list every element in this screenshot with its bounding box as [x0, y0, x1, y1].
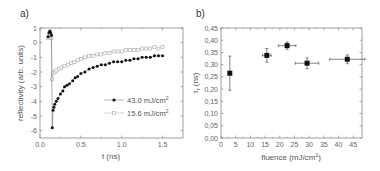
data-point-filled-circle: [76, 75, 79, 78]
y-tick-label: 0: [33, 39, 37, 46]
legend-label-15: 15.6 mJ/cm2: [127, 108, 169, 118]
panel-a-axes-frame: [40, 28, 183, 138]
data-point-open-square: [104, 51, 107, 54]
y-tick-label: -3: [31, 83, 37, 90]
panel-b-ticks: 0510152025303540450,000,050,100,150,200,…: [204, 25, 362, 149]
panel-b-x-axis-title: fluence (mJ/cm2): [261, 152, 321, 162]
x-tick-label: 30: [305, 141, 313, 148]
data-point-open-square: [120, 50, 123, 53]
data-point-filled-circle: [96, 65, 99, 68]
data-point-open-square: [76, 59, 79, 62]
data-point-open-square: [60, 66, 63, 69]
x-tick-label: 1.0: [117, 141, 127, 148]
panel-a-x-axis-title: t (ns): [102, 152, 121, 161]
panel-a-reflectivity-chart: a) 0.00.51.01.510-1-2-3-4-5-6 43.0 mJ/cm…: [16, 8, 183, 161]
data-point-open-square: [137, 49, 140, 52]
y-tick-label: -6: [31, 127, 37, 134]
data-point-filled-square: [264, 53, 269, 58]
data-point-open-square: [161, 46, 164, 49]
data-point-filled-circle: [157, 54, 160, 57]
y-tick-label: 0,35: [204, 49, 218, 56]
x-tick-label: 20: [276, 141, 284, 148]
y-tick-label: 0,20: [204, 86, 218, 93]
data-point-open-square: [63, 65, 66, 68]
data-point-open-square: [157, 47, 160, 50]
x-tick-label: 1.5: [158, 141, 168, 148]
data-point-filled-circle: [50, 34, 53, 37]
data-point-filled-circle: [104, 63, 107, 66]
data-point-filled-circle: [108, 62, 111, 65]
x-tick-label: 25: [291, 141, 299, 148]
data-point-open-square: [112, 50, 115, 53]
x-tick-label: 45: [349, 141, 357, 148]
data-point-filled-circle: [141, 56, 144, 59]
y-tick-label: 0,25: [204, 73, 218, 80]
data-point-open-square: [116, 50, 119, 53]
legend-marker-filled-circle-icon: [112, 98, 115, 101]
data-point-filled-circle: [100, 63, 103, 66]
data-point-open-square: [149, 47, 152, 50]
data-point-filled-circle: [149, 56, 152, 59]
data-point-filled-square: [285, 43, 290, 48]
x-tick-label: 0.0: [35, 141, 45, 148]
data-point-filled-circle: [51, 126, 54, 129]
panel-a-ticks: 0.00.51.01.510-1-2-3-4-5-6: [31, 25, 183, 149]
data-point-open-square: [124, 49, 127, 52]
panel-a-y-axis-title: reflectivity (arb. units): [16, 45, 25, 121]
data-point-filled-circle: [116, 60, 119, 63]
data-point-filled-circle: [52, 106, 55, 109]
data-point-filled-circle: [49, 31, 52, 34]
data-point-open-square: [73, 60, 76, 63]
data-point-open-square: [128, 49, 131, 52]
data-point-filled-square: [227, 71, 232, 76]
data-point-open-square: [153, 46, 156, 49]
data-point-filled-circle: [61, 90, 64, 93]
data-point-filled-circle: [153, 54, 156, 57]
data-point-filled-circle: [112, 60, 115, 63]
y-tick-label: 0,45: [204, 25, 218, 32]
data-point-open-square: [92, 54, 95, 57]
data-point-filled-circle: [53, 103, 56, 106]
axes-frame-rect: [40, 28, 183, 138]
data-point-open-square: [141, 47, 144, 50]
data-point-filled-circle: [124, 59, 127, 62]
data-point-open-square: [108, 51, 111, 54]
y-tick-label: -1: [31, 54, 37, 61]
panel-b-label: b): [196, 8, 205, 19]
data-point-filled-circle: [120, 60, 123, 63]
data-point-filled-circle: [161, 54, 164, 57]
data-point-open-square: [79, 57, 82, 60]
y-tick-label: -5: [31, 113, 37, 120]
y-tick-label: -2: [31, 69, 37, 76]
data-point-open-square: [51, 78, 54, 81]
data-point-filled-circle: [79, 72, 82, 75]
x-tick-label: 35: [320, 141, 328, 148]
data-point-open-square: [100, 53, 103, 56]
panel-b-y-axis-title: τr (ns): [191, 72, 201, 93]
data-point-filled-circle: [132, 57, 135, 60]
data-point-open-square: [88, 54, 91, 57]
x-tick-label: 0.5: [76, 141, 86, 148]
axes-frame-rect: [221, 28, 362, 138]
y-tick-label: -4: [31, 98, 37, 105]
data-point-filled-square: [305, 61, 310, 66]
x-tick-label: 0: [219, 141, 223, 148]
y-tick-label: 0,05: [204, 122, 218, 129]
data-point-filled-circle: [71, 79, 74, 82]
panel-b-data-points: [227, 42, 365, 90]
data-point-open-square: [66, 63, 69, 66]
data-point-filled-circle: [47, 35, 50, 38]
data-point-filled-square: [345, 57, 350, 62]
y-tick-label: 0,00: [204, 135, 218, 142]
data-point-filled-circle: [52, 109, 55, 112]
data-point-filled-circle: [56, 97, 59, 100]
x-tick-label: 5: [234, 141, 238, 148]
x-tick-label: 40: [335, 141, 343, 148]
y-tick-label: 0,10: [204, 110, 218, 117]
y-tick-label: 0,30: [204, 61, 218, 68]
y-tick-label: 0,40: [204, 37, 218, 44]
data-point-filled-circle: [68, 82, 71, 85]
y-tick-label: 0,15: [204, 98, 218, 105]
data-point-filled-circle: [88, 68, 91, 71]
data-point-filled-circle: [83, 71, 86, 74]
